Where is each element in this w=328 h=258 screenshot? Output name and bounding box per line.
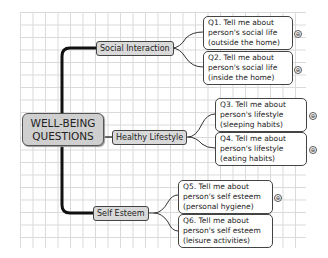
central-topic-well-being-questions[interactable]: WELL-BEING QUESTIONS [22,113,104,146]
question-line: (outside the home) [208,38,288,48]
question-q5[interactable]: Q5. Tell me about person's self esteem (… [178,180,273,214]
branch-self-esteem[interactable]: Self Esteem [93,206,149,221]
question-line: (inside the home) [208,73,288,83]
question-line: Q1. Tell me about [208,18,288,28]
question-line: Q3. Tell me about [220,100,302,110]
question-line: (eating habits) [220,154,302,164]
question-q2[interactable]: Q2. Tell me about person's social life (… [203,51,293,85]
question-q4[interactable]: Q4. Tell me about person's lifestyle (ea… [215,132,307,166]
question-line: person's social life [208,28,288,38]
expand-icon[interactable]: ⊕ [294,66,302,74]
question-line: person's social life [208,63,288,73]
central-topic-line2: QUESTIONS [23,130,103,143]
expand-icon[interactable]: ⊕ [309,146,317,154]
expand-icon[interactable]: ⊕ [294,30,302,38]
question-line: person's lifestyle [220,110,302,120]
question-line: person's lifestyle [220,144,302,154]
question-line: Q5. Tell me about [183,182,268,192]
question-q6[interactable]: Q6. Tell me about person's self esteem (… [178,214,273,248]
question-q3[interactable]: Q3. Tell me about person's lifestyle (sl… [215,98,307,132]
question-line: (personal hygiene) [183,202,268,212]
question-line: Q2. Tell me about [208,53,288,63]
question-q1[interactable]: Q1. Tell me about person's social life (… [203,16,293,50]
question-line: (sleeping habits) [220,120,302,130]
branch-label: Self Esteem [97,209,145,218]
branch-social-interaction[interactable]: Social Interaction [96,41,174,56]
branch-label: Social Interaction [100,44,170,53]
question-line: (leisure activities) [183,236,268,246]
question-line: Q6. Tell me about [183,216,268,226]
branch-label: Healthy Lifestyle [116,133,183,142]
expand-icon[interactable]: ⊕ [274,194,282,202]
expand-icon[interactable]: ⊕ [309,112,317,120]
question-line: person's self esteem [183,226,268,236]
central-topic-line1: WELL-BEING [23,117,103,130]
branch-healthy-lifestyle[interactable]: Healthy Lifestyle [112,130,187,145]
question-line: Q4. Tell me about [220,134,302,144]
question-line: person's self esteem [183,192,268,202]
